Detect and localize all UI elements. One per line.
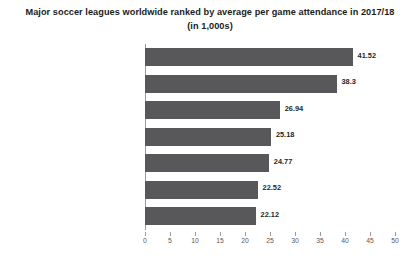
bar — [145, 128, 271, 146]
bar-value-label: 22.12 — [261, 210, 280, 219]
bar — [145, 207, 256, 225]
bar-row: Primera División (Spain)26.94 — [145, 97, 396, 124]
x-axis-tick — [320, 232, 321, 236]
bar — [145, 101, 280, 119]
x-axis-tick-label: 50 — [380, 237, 410, 244]
chart-title: Major soccer leagues worldwide ranked by… — [24, 6, 396, 33]
bar-row: Primera División (Mexico)25.18 — [145, 124, 396, 151]
bar-row: Serie A (Italy)24.77 — [145, 150, 396, 177]
x-axis-tick — [270, 232, 271, 236]
x-axis-tick — [245, 232, 246, 236]
plot-area: Bundesliga (Germany)41.52Premier League … — [145, 44, 396, 230]
bar-row: Ligue 1 (France)22.52 — [145, 177, 396, 204]
x-axis-tick — [370, 232, 371, 236]
bar — [145, 181, 258, 199]
bar-row: Premier League (England)38.3 — [145, 71, 396, 98]
x-axis-tick — [195, 232, 196, 236]
bar-value-label: 38.3 — [342, 77, 356, 86]
x-axis-tick — [220, 232, 221, 236]
x-axis-tick — [170, 232, 171, 236]
bar — [145, 48, 353, 66]
x-axis-tick — [345, 232, 346, 236]
bar-chart-figure: Major soccer leagues worldwide ranked by… — [0, 0, 419, 256]
bar-value-label: 24.77 — [274, 157, 293, 166]
x-axis-tick — [145, 232, 146, 236]
bar-value-label: 25.18 — [276, 130, 295, 139]
bar-value-label: 26.94 — [285, 104, 304, 113]
bar — [145, 75, 337, 93]
bar-value-label: 41.52 — [358, 51, 377, 60]
x-axis-tick — [295, 232, 296, 236]
x-axis-tick — [395, 232, 396, 236]
bar-row: Bundesliga (Germany)41.52 — [145, 44, 396, 71]
bar — [145, 154, 269, 172]
bar-value-label: 22.52 — [263, 183, 282, 192]
bar-row: Major League Soccer (North America)22.12 — [145, 203, 396, 230]
